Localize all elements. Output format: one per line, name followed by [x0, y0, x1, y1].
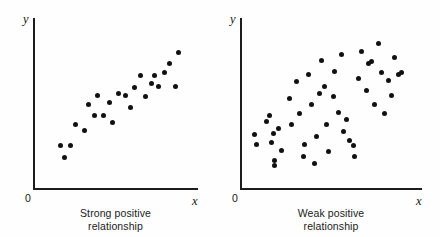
y-axis-line-weak: [240, 18, 242, 189]
data-point: [326, 149, 331, 154]
y-axis-label-strong: y: [23, 13, 29, 26]
data-point: [306, 72, 311, 77]
y-axis-label-weak: y: [230, 13, 236, 26]
data-point: [272, 163, 277, 168]
data-point: [68, 143, 73, 148]
data-point: [173, 84, 178, 89]
scatter-panel-weak: y x 0 Weak positive relationship: [210, 0, 440, 237]
data-point: [132, 85, 137, 90]
data-point: [319, 58, 324, 63]
data-point: [399, 70, 404, 75]
data-point: [287, 96, 292, 101]
data-point: [271, 131, 276, 136]
data-point: [101, 113, 106, 118]
data-point: [324, 122, 329, 127]
data-point: [351, 143, 356, 148]
x-axis-label-weak: x: [416, 195, 422, 208]
data-point: [369, 59, 374, 64]
data-point: [294, 79, 299, 84]
data-point: [92, 113, 97, 118]
data-point: [379, 70, 384, 75]
plot-area-weak: y x 0: [210, 0, 440, 237]
data-point: [276, 126, 281, 131]
data-point: [331, 94, 336, 99]
data-point: [314, 134, 319, 139]
x-axis-line-strong: [33, 188, 198, 190]
data-point: [359, 49, 364, 54]
data-point: [156, 84, 161, 89]
data-point: [95, 93, 100, 98]
data-point: [382, 111, 387, 116]
data-point: [352, 154, 357, 159]
data-point: [364, 88, 369, 93]
x-axis-label-strong: x: [192, 195, 198, 208]
caption-weak: Weak positive relationship: [240, 207, 422, 234]
data-point: [73, 122, 78, 127]
data-point: [252, 132, 257, 137]
data-point: [309, 102, 314, 107]
figure-root: y x 0 Strong positive relationship y x 0…: [0, 0, 440, 237]
data-point: [289, 122, 294, 127]
data-point: [372, 102, 377, 107]
x-axis-line-weak: [240, 188, 422, 190]
scatter-panel-strong: y x 0 Strong positive relationship: [0, 0, 210, 237]
data-point: [58, 143, 63, 148]
y-axis-line-strong: [33, 18, 35, 189]
caption-line-2: relationship: [33, 220, 198, 233]
data-point: [254, 142, 259, 147]
data-point: [176, 50, 181, 55]
data-point: [267, 113, 272, 118]
data-point: [332, 69, 337, 74]
data-point: [123, 93, 128, 98]
origin-label-strong: 0: [25, 193, 31, 204]
data-point: [110, 120, 115, 125]
data-point: [264, 119, 269, 124]
data-point: [302, 142, 307, 147]
caption-line-1: Weak positive: [240, 207, 422, 220]
data-point: [301, 154, 306, 159]
data-point: [389, 93, 394, 98]
data-point: [82, 128, 87, 133]
data-point: [62, 155, 67, 160]
data-point: [152, 73, 157, 78]
data-point: [143, 94, 148, 99]
data-point: [86, 102, 91, 107]
data-point: [116, 91, 121, 96]
data-point: [344, 117, 349, 122]
data-point: [279, 148, 284, 153]
data-point: [341, 129, 346, 134]
data-point: [386, 78, 391, 83]
origin-label-weak: 0: [232, 193, 238, 204]
data-point: [317, 91, 322, 96]
data-point: [167, 61, 172, 66]
data-point: [162, 70, 167, 75]
data-point: [336, 110, 341, 115]
data-point: [297, 111, 302, 116]
data-point: [339, 52, 344, 57]
caption-strong: Strong positive relationship: [33, 207, 198, 234]
data-point: [392, 55, 397, 60]
data-point: [322, 84, 327, 89]
plot-area-strong: y x 0: [0, 0, 210, 237]
data-point: [128, 105, 133, 110]
data-point: [356, 76, 361, 81]
data-point: [107, 100, 112, 105]
caption-line-2: relationship: [240, 220, 422, 233]
data-point: [376, 41, 381, 46]
data-point: [312, 161, 317, 166]
data-point: [138, 73, 143, 78]
data-point: [149, 81, 154, 86]
caption-line-1: Strong positive: [33, 207, 198, 220]
data-point: [269, 140, 274, 145]
